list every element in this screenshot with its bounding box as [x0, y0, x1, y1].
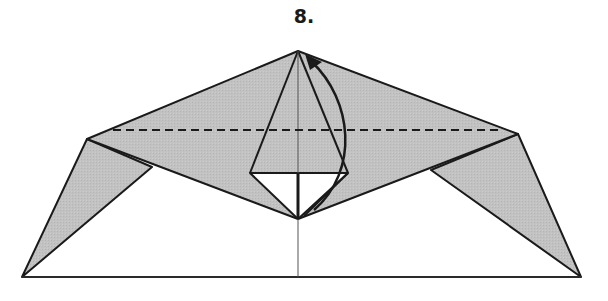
origami-diagram: [0, 0, 608, 301]
paper-base: [22, 219, 581, 277]
